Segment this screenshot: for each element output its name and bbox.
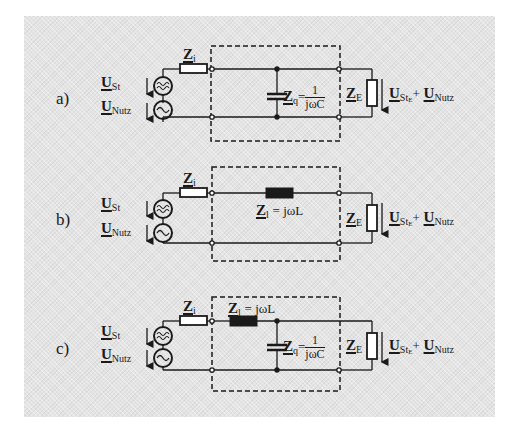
u-st-label: USt <box>101 196 120 213</box>
u-out-label: UStE+ UNutz <box>389 338 454 356</box>
load-resistor <box>367 80 377 106</box>
u-nutz-label: UNutz <box>101 347 131 364</box>
zl-label: Zl = jωL <box>228 301 275 318</box>
zl-label: Zl = jωL <box>256 203 303 220</box>
zi-label: Zi <box>183 299 196 316</box>
case-label-c: c) <box>56 340 69 357</box>
u-st-label: USt <box>101 324 120 341</box>
ze-label: ZE <box>346 338 362 355</box>
ze-label: ZE <box>346 86 362 103</box>
u-nutz-label: UNutz <box>101 99 131 116</box>
case-label-a: a) <box>56 90 69 107</box>
zi-label: Zi <box>183 171 196 188</box>
zq-label: Zq=1jωC <box>283 334 325 360</box>
u-out-label: UStE+ UNutz <box>389 210 454 228</box>
u-nutz-label: UNutz <box>101 221 131 238</box>
inductor <box>266 188 293 198</box>
zq-label: Zq=1jωC <box>283 84 325 110</box>
zi-label: Zi <box>183 47 196 64</box>
u-st-label: USt <box>101 75 120 92</box>
u-out-label: UStE+ UNutz <box>389 86 454 104</box>
internal-impedance-resistor <box>180 64 207 73</box>
case-label-b: b) <box>56 211 70 228</box>
ze-label: ZE <box>346 211 362 228</box>
